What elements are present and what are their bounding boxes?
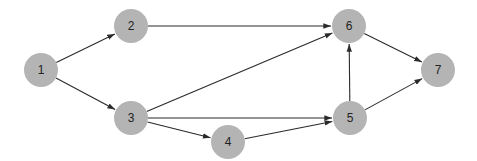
graph-canvas: 1234567 [0, 0, 477, 161]
node-label: 7 [435, 63, 442, 77]
edge-4-to-5 [245, 121, 333, 138]
nodes-layer: 1234567 [24, 9, 455, 159]
edge-5-to-7 [365, 79, 422, 110]
edge-1-to-3 [56, 78, 115, 110]
node-4: 4 [211, 125, 245, 159]
node-label: 1 [38, 63, 45, 77]
graph-diagram: 1234567 [0, 0, 477, 161]
edge-3-to-4 [148, 122, 211, 138]
node-2: 2 [114, 9, 148, 43]
edge-6-to-7 [364, 34, 422, 62]
node-label: 4 [225, 135, 232, 149]
node-label: 6 [346, 19, 353, 33]
edge-5-to-6 [349, 44, 350, 101]
node-5: 5 [333, 101, 367, 135]
edge-3-to-6 [147, 33, 333, 111]
node-label: 5 [347, 111, 354, 125]
edge-1-to-2 [56, 34, 115, 63]
node-3: 3 [114, 101, 148, 135]
node-1: 1 [24, 53, 58, 87]
node-7: 7 [421, 53, 455, 87]
edges-layer [56, 26, 422, 139]
node-label: 3 [128, 111, 135, 125]
node-label: 2 [128, 19, 135, 33]
node-6: 6 [332, 9, 366, 43]
